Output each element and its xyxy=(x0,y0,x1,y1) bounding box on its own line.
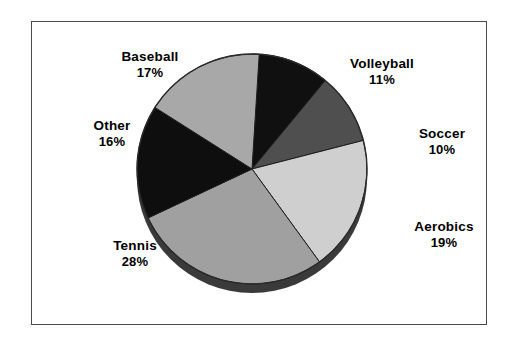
slice-label-tennis-percent: 28% xyxy=(80,254,190,271)
chart-frame: Baseball 17% Volleyball 11% Soccer 10% A… xyxy=(31,21,487,325)
slice-label-other-name: Other xyxy=(93,118,130,133)
slice-label-aerobics-name: Aerobics xyxy=(414,219,473,234)
slice-label-baseball-percent: 17% xyxy=(95,65,205,82)
slice-label-other: Other 16% xyxy=(60,117,164,151)
slice-label-tennis: Tennis 28% xyxy=(80,237,190,271)
slice-label-volleyball-name: Volleyball xyxy=(350,56,414,71)
slice-label-soccer-name: Soccer xyxy=(419,126,465,141)
pie-chart-figure: Baseball 17% Volleyball 11% Soccer 10% A… xyxy=(0,0,510,339)
slice-label-baseball-name: Baseball xyxy=(121,49,178,64)
slice-label-other-percent: 16% xyxy=(60,134,164,151)
slice-label-tennis-name: Tennis xyxy=(113,238,157,253)
slice-label-soccer: Soccer 10% xyxy=(387,125,497,159)
slice-label-soccer-percent: 10% xyxy=(387,142,497,159)
slice-label-baseball: Baseball 17% xyxy=(95,48,205,82)
slice-label-aerobics-percent: 19% xyxy=(384,235,504,252)
pie-plot-area: Baseball 17% Volleyball 11% Soccer 10% A… xyxy=(32,22,488,326)
slice-label-volleyball-percent: 11% xyxy=(322,72,442,89)
slice-label-aerobics: Aerobics 19% xyxy=(384,218,504,252)
slice-label-volleyball: Volleyball 11% xyxy=(322,55,442,89)
